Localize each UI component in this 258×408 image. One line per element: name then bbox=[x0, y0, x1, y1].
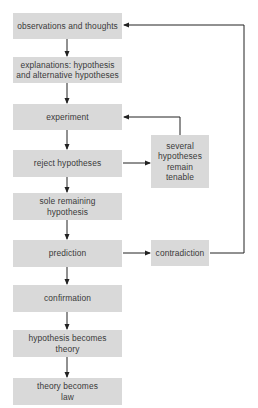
node-label: hypothesis becomes theory bbox=[16, 333, 119, 354]
node-hypothesis-theory: hypothesis becomes theory bbox=[13, 330, 122, 357]
node-label: reject hypotheses bbox=[34, 158, 101, 169]
node-experiment: experiment bbox=[13, 104, 122, 130]
node-label: experiment bbox=[46, 112, 88, 123]
node-label: contradiction bbox=[156, 248, 205, 259]
arrow-several-experiment bbox=[124, 117, 180, 135]
node-observations: observations and thoughts bbox=[13, 13, 122, 39]
node-explanations: explanations: hypothesis and alternative… bbox=[13, 57, 122, 83]
node-confirmation: confirmation bbox=[13, 285, 122, 312]
node-label: theory becomes law bbox=[16, 381, 119, 402]
node-prediction: prediction bbox=[13, 240, 122, 267]
node-reject: reject hypotheses bbox=[13, 150, 122, 177]
node-label: several hypotheses remain tenable bbox=[154, 141, 206, 183]
node-theory-law: theory becomes law bbox=[13, 378, 122, 405]
node-label: explanations: hypothesis and alternative… bbox=[16, 60, 119, 81]
node-sole: sole remaining hypothesis bbox=[13, 193, 122, 220]
node-label: sole remaining hypothesis bbox=[16, 196, 119, 217]
node-label: prediction bbox=[49, 248, 86, 259]
node-label: observations and thoughts bbox=[17, 21, 118, 32]
node-contradiction: contradiction bbox=[151, 240, 209, 266]
node-several: several hypotheses remain tenable bbox=[151, 135, 209, 188]
node-label: confirmation bbox=[44, 293, 91, 304]
